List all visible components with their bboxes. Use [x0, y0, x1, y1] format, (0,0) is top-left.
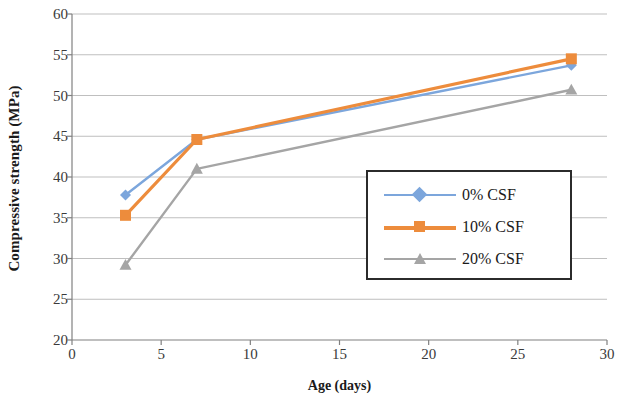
legend-entry-2[interactable]: 20% CSF	[368, 244, 574, 274]
legend-entry-0[interactable]: 0% CSF	[368, 180, 574, 210]
legend-key-1	[384, 217, 456, 237]
legend-marker-square-icon	[414, 221, 425, 232]
legend-label-2: 20% CSF	[456, 250, 524, 268]
legend-key-0	[384, 185, 456, 205]
data-point-1-2	[566, 53, 577, 64]
legend-marker-triangle-icon	[414, 253, 426, 264]
x-axis-title-text: Age (days)	[308, 378, 371, 393]
legend-key-2	[384, 249, 456, 269]
data-point-1-1	[191, 134, 202, 145]
legend: 0% CSF10% CSF20% CSF	[366, 170, 572, 280]
legend-label-0: 0% CSF	[456, 186, 516, 204]
legend-entry-1[interactable]: 10% CSF	[368, 212, 574, 242]
data-point-1-0	[120, 210, 131, 221]
data-point-2-2	[565, 84, 577, 95]
legend-label-1: 10% CSF	[456, 218, 524, 236]
legend-marker-diamond-icon	[412, 187, 428, 203]
x-axis-title: Age (days)	[72, 378, 607, 394]
chart-container: Compressive strength (MPa) 2025303540455…	[0, 0, 625, 408]
